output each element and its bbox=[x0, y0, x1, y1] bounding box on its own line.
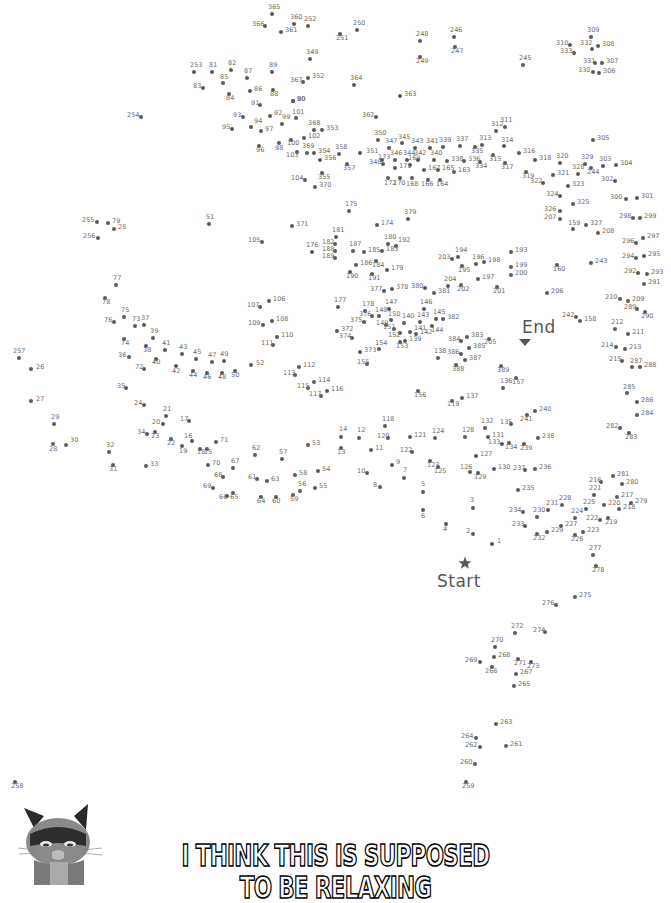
puzzle-dot bbox=[629, 501, 633, 505]
puzzle-dot bbox=[418, 39, 422, 43]
puzzle-dot bbox=[566, 184, 570, 188]
puzzle-dot bbox=[312, 128, 316, 132]
dot-number-label: 290 bbox=[641, 313, 653, 320]
puzzle-dot bbox=[478, 660, 482, 664]
puzzle-dot bbox=[613, 327, 617, 331]
puzzle-dot bbox=[253, 453, 257, 457]
dot-number-label: 240 bbox=[539, 406, 551, 413]
dot-number-label: 258 bbox=[11, 783, 23, 790]
dot-number-label: 67 bbox=[231, 458, 239, 465]
dot-number-label: 293 bbox=[651, 269, 663, 276]
dot-number-label: 164 bbox=[436, 181, 448, 188]
puzzle-dot bbox=[598, 518, 602, 522]
dot-number-label: 58 bbox=[299, 470, 307, 477]
puzzle-dot bbox=[347, 209, 351, 213]
puzzle-dot bbox=[558, 209, 562, 213]
dot-number-label: 339 bbox=[439, 137, 451, 144]
dot-number-label: 144 bbox=[431, 327, 443, 334]
puzzle-dot bbox=[502, 144, 506, 148]
dot-number-label: 8 bbox=[373, 482, 377, 489]
dot-number-label: 57 bbox=[279, 449, 287, 456]
dot-number-label: 233 bbox=[512, 521, 524, 528]
dot-number-label: 143 bbox=[417, 312, 429, 319]
dot-number-label: 133 bbox=[488, 439, 500, 446]
puzzle-dot bbox=[641, 236, 645, 240]
dot-number-label: 36 bbox=[118, 352, 126, 359]
dot-number-label: 27 bbox=[36, 396, 44, 403]
puzzle-dot bbox=[504, 744, 508, 748]
puzzle-dot bbox=[509, 265, 513, 269]
dot-number-label: 326 bbox=[544, 206, 556, 213]
dot-number-label: 304 bbox=[620, 160, 632, 167]
dot-number-label: 223 bbox=[587, 527, 599, 534]
dot-number-label: 71 bbox=[220, 437, 228, 444]
dot-number-label: 248 bbox=[416, 31, 428, 38]
dot-number-label: 154 bbox=[375, 340, 387, 347]
puzzle-dot bbox=[611, 474, 615, 478]
puzzle-dot bbox=[362, 320, 366, 324]
dot-number-label: 280 bbox=[626, 479, 638, 486]
dot-number-label: 122 bbox=[400, 447, 412, 454]
puzzle-dot bbox=[458, 144, 462, 148]
dot-number-label: 117 bbox=[309, 391, 321, 398]
puzzle-dot bbox=[509, 273, 513, 277]
dot-number-label: 103 bbox=[286, 152, 298, 159]
puzzle-dot bbox=[142, 403, 146, 407]
dot-number-label: 98 bbox=[275, 145, 283, 152]
dot-number-label: 193 bbox=[515, 247, 527, 254]
puzzle-dot bbox=[614, 163, 618, 167]
puzzle-dot bbox=[133, 324, 137, 328]
dot-number-label: 245 bbox=[519, 55, 531, 62]
puzzle-dot bbox=[29, 367, 33, 371]
dot-number-label: 243 bbox=[595, 258, 607, 265]
puzzle-dot bbox=[501, 386, 505, 390]
dot-number-label: 128 bbox=[462, 427, 474, 434]
dot-number-label: 7 bbox=[403, 467, 407, 474]
puzzle-dot bbox=[390, 463, 394, 467]
puzzle-dot bbox=[590, 47, 594, 51]
dot-number-label: 3 bbox=[470, 497, 474, 504]
dot-number-label: 168 bbox=[406, 181, 418, 188]
dot-number-label: 6 bbox=[421, 513, 425, 520]
dot-number-label: 64 bbox=[257, 498, 265, 505]
dot-number-label: 202 bbox=[457, 286, 469, 293]
dot-number-label: 305 bbox=[597, 135, 609, 142]
dot-number-label: 343 bbox=[411, 138, 423, 145]
dot-number-label: 375 bbox=[350, 317, 362, 324]
puzzle-dot bbox=[221, 81, 225, 85]
puzzle-dot bbox=[473, 762, 477, 766]
puzzle-dot bbox=[423, 286, 427, 290]
dot-number-label: 327 bbox=[590, 220, 602, 227]
dot-number-label: 386 bbox=[447, 349, 459, 356]
dot-number-label: 9 bbox=[396, 459, 400, 466]
dot-number-label: 206 bbox=[551, 288, 563, 295]
puzzle-dot bbox=[302, 136, 306, 140]
dot-number-label: 181 bbox=[332, 227, 344, 234]
dot-number-label: 180 bbox=[384, 234, 396, 241]
puzzle-dot bbox=[106, 221, 110, 225]
puzzle-dot bbox=[52, 422, 56, 426]
puzzle-dot bbox=[596, 44, 600, 48]
puzzle-dot bbox=[406, 217, 410, 221]
dot-number-label: 175 bbox=[345, 201, 357, 208]
puzzle-dot bbox=[387, 146, 391, 150]
dot-number-label: 32 bbox=[106, 442, 114, 449]
dot-number-label: 46 bbox=[203, 374, 211, 381]
dot-number-label: 250 bbox=[353, 20, 365, 27]
dot-number-label: 277 bbox=[589, 545, 601, 552]
dot-number-label: 308 bbox=[602, 41, 614, 48]
puzzle-dot bbox=[500, 442, 504, 446]
puzzle-dot bbox=[554, 603, 558, 607]
dot-number-label: 135 bbox=[500, 419, 512, 426]
dot-number-label: 281 bbox=[617, 471, 629, 478]
dot-number-label: 74 bbox=[121, 340, 129, 347]
puzzle-dot bbox=[334, 235, 338, 239]
dot-number-label: 47 bbox=[208, 352, 216, 359]
dot-number-label: 179 bbox=[391, 265, 403, 272]
dot-number-label: 53 bbox=[312, 440, 320, 447]
dot-number-label: 50 bbox=[231, 372, 239, 379]
dot-number-label: 178 bbox=[362, 301, 374, 308]
puzzle-dot bbox=[145, 432, 149, 436]
puzzle-dot bbox=[614, 345, 618, 349]
puzzle-dot bbox=[320, 128, 324, 132]
